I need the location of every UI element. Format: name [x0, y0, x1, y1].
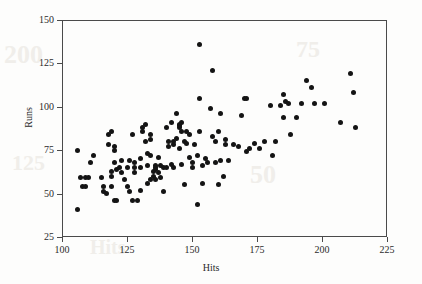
y-tick-label: 125: [14, 58, 54, 68]
y-axis-title: Runs: [23, 88, 34, 148]
x-tick-mark: [192, 237, 193, 242]
y-tick-mark: [57, 63, 62, 64]
y-tick-mark: [57, 20, 62, 21]
x-tick-label: 150: [172, 245, 212, 255]
x-tick-label: 225: [367, 245, 407, 255]
x-tick-label: 200: [302, 245, 342, 255]
x-tick-label: 100: [42, 245, 82, 255]
scatter-plot-figure: 200 75 125 50 Hits 255075100125150 10012…: [0, 0, 422, 284]
x-tick-mark: [387, 237, 388, 242]
x-tick-label: 125: [107, 245, 147, 255]
y-tick-label: 150: [14, 15, 54, 25]
x-axis-title: Hits: [0, 262, 422, 273]
y-tick-label: 100: [14, 102, 54, 112]
y-tick-label: 25: [14, 232, 54, 242]
y-tick-label: 50: [14, 189, 54, 199]
y-tick-label: 75: [14, 145, 54, 155]
y-tick-mark: [57, 150, 62, 151]
x-tick-mark: [322, 237, 323, 242]
plot-frame: [62, 20, 387, 237]
x-tick-mark: [127, 237, 128, 242]
y-tick-mark: [57, 107, 62, 108]
x-tick-label: 175: [237, 245, 277, 255]
x-tick-mark: [257, 237, 258, 242]
y-tick-mark: [57, 194, 62, 195]
x-tick-mark: [62, 237, 63, 242]
